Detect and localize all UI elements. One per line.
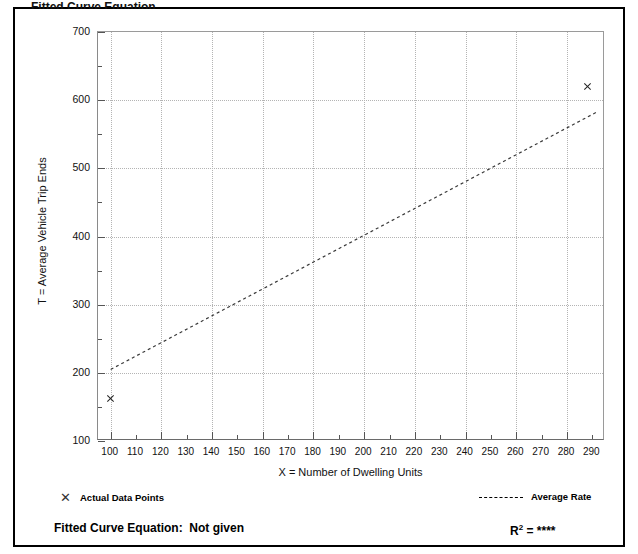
average-rate-line [98,32,605,441]
plot-area [97,31,604,440]
y-axis-tick-label: 300 [50,298,90,310]
legend-average-rate-label: Average Rate [531,491,591,503]
y-axis-tick-label: 700 [50,25,90,37]
x-axis-tick-label: 290 [571,446,611,458]
r-squared-value: R2 = **** [510,520,555,539]
chart-figure: T = Average Vehicle Trip Ends X = Number… [0,0,638,480]
y-axis-title: T = Average Vehicle Trip Ends [36,81,48,381]
y-axis-tick-label: 600 [50,93,90,105]
fitted-curve-equation: Fitted Curve Equation: Not given [54,520,244,536]
y-axis-tick [98,441,105,442]
x-axis-title: X = Number of Dwelling Units [97,466,604,478]
legend-actual-data-points-label: Actual Data Points [80,492,164,504]
chart-legend: ✕ Actual Data Points Average Rate [0,488,638,512]
equation-row: Fitted Curve Equation: Not given R2 = **… [0,520,638,544]
x-marker-icon: ✕ [60,492,71,503]
y-axis-tick-label: 500 [50,161,90,173]
y-axis-tick-label: 400 [50,230,90,242]
y-axis-tick-label: 100 [50,434,90,446]
dashed-line-icon [479,497,523,498]
y-axis-tick-label: 200 [50,366,90,378]
